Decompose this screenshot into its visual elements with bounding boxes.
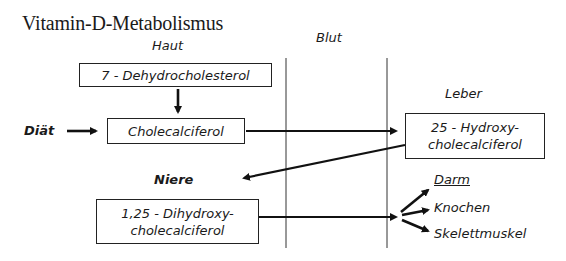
- arrow-to-knochen: [402, 210, 428, 215]
- target-skelettmuskel: Skelettmuskel: [434, 226, 526, 241]
- compartment-blut: Blut: [316, 30, 342, 45]
- node-label-line2: cholecalciferol: [406, 136, 544, 153]
- target-knochen: Knochen: [434, 200, 490, 215]
- compartment-niere: Niere: [154, 172, 193, 187]
- arrow-to-skelettmuskel: [402, 220, 428, 231]
- input-diaet: Diät: [24, 123, 54, 138]
- compartment-leber: Leber: [445, 86, 482, 101]
- node-1-25-dihydroxycholecalciferol: 1,25 - Dihydroxy- cholecalciferol: [96, 199, 259, 244]
- node-label-line1: 25 - Hydroxy-: [406, 119, 544, 136]
- node-25-hydroxycholecalciferol: 25 - Hydroxy- cholecalciferol: [405, 113, 545, 159]
- node-cholecalciferol: Cholecalciferol: [107, 118, 245, 144]
- arrow-to-darm: [401, 190, 428, 212]
- node-label-line1: 1,25 - Dihydroxy-: [97, 205, 258, 222]
- target-darm: Darm: [434, 172, 470, 187]
- node-label-line2: cholecalciferol: [97, 222, 258, 239]
- node-label: 7 - Dehydrocholesterol: [80, 67, 271, 84]
- arrow-hydroxy-to-niere: [244, 145, 405, 178]
- node-7-dehydrocholesterol: 7 - Dehydrocholesterol: [79, 63, 272, 87]
- compartment-haut: Haut: [152, 38, 183, 53]
- node-label: Cholecalciferol: [108, 123, 244, 140]
